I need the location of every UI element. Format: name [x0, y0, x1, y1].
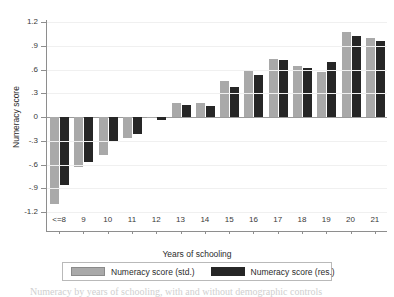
bar	[254, 75, 263, 117]
bar-group	[268, 22, 288, 212]
gridline	[47, 165, 387, 166]
bar	[196, 103, 205, 117]
x-axis-tick	[278, 231, 279, 234]
bar	[60, 117, 69, 185]
x-axis-title: Years of schooling	[0, 249, 394, 259]
bar	[352, 36, 361, 117]
black-swatch-icon	[211, 267, 245, 276]
bar-group	[171, 22, 191, 212]
bar-series-container	[47, 22, 387, 212]
x-axis-tick	[375, 231, 376, 234]
bar-group	[243, 22, 263, 212]
numeracy-by-schooling-figure: Numeracy score Years of schooling Numera…	[0, 0, 394, 297]
chart-legend: Numeracy score (std.) Numeracy score (re…	[62, 262, 332, 281]
x-axis-tick	[108, 231, 109, 234]
legend-item-std[interactable]: Numeracy score (std.)	[71, 263, 195, 280]
y-axis-tick	[41, 117, 46, 118]
y-axis-tick-label: -.6	[12, 161, 38, 169]
bar-group	[49, 22, 69, 212]
bar	[182, 105, 191, 117]
gridline	[47, 188, 387, 189]
bar	[133, 117, 142, 134]
x-axis-spine	[46, 231, 387, 232]
x-axis-tick	[253, 231, 254, 234]
x-axis-tick	[302, 231, 303, 234]
y-axis-tick	[41, 22, 46, 23]
bar	[147, 117, 156, 118]
bar-group	[292, 22, 312, 212]
y-axis-tick-label: -1.2	[12, 208, 38, 216]
y-axis-tick-label: .9	[12, 42, 38, 50]
x-axis-tick	[205, 231, 206, 234]
y-axis-tick-label: -.9	[12, 184, 38, 192]
bar	[230, 87, 239, 117]
bar	[109, 117, 118, 142]
y-axis-tick	[41, 141, 46, 142]
gridline	[47, 212, 387, 213]
y-axis-tick-label: 1.2	[12, 18, 38, 26]
bar-group	[98, 22, 118, 212]
bar	[293, 66, 302, 117]
y-axis-tick	[41, 188, 46, 189]
y-axis-tick-label: .6	[12, 66, 38, 74]
bar	[220, 81, 229, 117]
bar	[123, 117, 132, 138]
bar-group	[365, 22, 385, 212]
bar	[50, 117, 59, 204]
y-axis-tick	[41, 165, 46, 166]
legend-label-std: Numeracy score (std.)	[111, 267, 195, 277]
bar-group	[341, 22, 361, 212]
x-axis-tick	[181, 231, 182, 234]
bar-group	[316, 22, 336, 212]
bar-group	[195, 22, 215, 212]
gridline	[47, 141, 387, 142]
gray-swatch-icon	[71, 267, 105, 276]
bar-group	[73, 22, 93, 212]
x-axis-tick	[132, 231, 133, 234]
bar-group	[219, 22, 239, 212]
bar	[84, 117, 93, 162]
x-axis-tick	[326, 231, 327, 234]
legend-item-res[interactable]: Numeracy score (res.)	[211, 263, 335, 280]
y-axis-tick	[41, 46, 46, 47]
bar-group	[122, 22, 142, 212]
bar	[172, 103, 181, 117]
x-axis-tick	[229, 231, 230, 234]
x-axis-tick	[156, 231, 157, 234]
gridline	[47, 93, 387, 94]
y-axis-tick-label: -.3	[12, 137, 38, 145]
bar	[157, 117, 166, 120]
x-axis-tick-label: 21	[360, 216, 390, 224]
gridline	[47, 46, 387, 47]
bar	[366, 38, 375, 117]
legend-label-res: Numeracy score (res.)	[251, 267, 335, 277]
bar	[99, 117, 108, 155]
x-axis-tick	[59, 231, 60, 234]
bar	[376, 41, 385, 117]
bar	[74, 117, 83, 167]
y-axis-tick	[41, 70, 46, 71]
bar-group	[146, 22, 166, 212]
x-axis-tick	[83, 231, 84, 234]
x-axis-tick	[351, 231, 352, 234]
y-axis-tick	[41, 212, 46, 213]
bar	[269, 59, 278, 117]
y-axis-tick	[41, 93, 46, 94]
gridline	[47, 22, 387, 23]
gridline	[47, 70, 387, 71]
y-axis-tick-label: 0	[12, 113, 38, 121]
y-axis-tick-label: .3	[12, 89, 38, 97]
bar	[317, 72, 326, 117]
figure-caption: Numeracy by years of schooling, with and…	[30, 286, 390, 297]
bar	[206, 106, 215, 117]
